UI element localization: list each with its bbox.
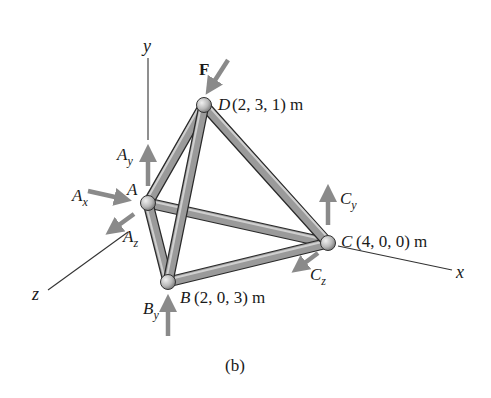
force-Ay-label: Ay xyxy=(116,145,133,168)
labels: F D (2, 3, 1) m A B (2, 0, 3) m C (4, 0,… xyxy=(71,60,427,375)
joint-B-coords: (2, 0, 3) m xyxy=(194,288,265,307)
force-Cz-label: Cz xyxy=(310,265,326,288)
joint-A-name: A xyxy=(126,180,138,199)
z-axis-label: z xyxy=(31,284,39,304)
joint-C-name: C xyxy=(341,232,353,251)
x-axis-label: x xyxy=(455,262,464,282)
space-truss-diagram: y z x xyxy=(0,0,491,398)
force-By-label: By xyxy=(143,299,159,322)
joint-B xyxy=(161,275,176,290)
force-F-label: F xyxy=(199,60,209,79)
joint-D-coords: (2, 3, 1) m xyxy=(232,95,303,114)
force-F-arrow xyxy=(210,60,228,88)
joint-C xyxy=(321,236,336,251)
joint-C-coords: (4, 0, 0) m xyxy=(356,232,427,251)
z-axis-line xyxy=(48,232,128,290)
joint-D-name: D xyxy=(217,95,231,114)
force-Ax-arrow xyxy=(88,191,124,199)
joint-A xyxy=(141,196,156,211)
y-axis-label: y xyxy=(141,36,151,56)
truss-members xyxy=(146,104,330,282)
force-Az-label: Az xyxy=(122,227,138,250)
joint-D xyxy=(197,98,212,113)
force-Cy-label: Cy xyxy=(340,189,357,212)
joint-B-name: B xyxy=(180,288,191,307)
force-Ax-label: Ax xyxy=(71,186,88,209)
figure-caption: (b) xyxy=(225,356,245,375)
